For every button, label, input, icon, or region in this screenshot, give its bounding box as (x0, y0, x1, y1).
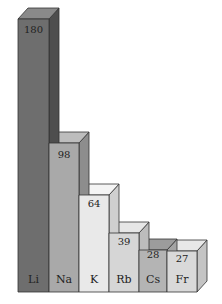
bar-label-li: Li (18, 273, 49, 286)
bar-label-fr: Fr (167, 273, 197, 286)
bar-label-cs: Cs (139, 273, 167, 286)
bar-rb: 39 Rb (109, 231, 139, 292)
bar-k: 64 K (79, 193, 109, 292)
bar-value-li: 180 (18, 24, 49, 35)
bar-value-cs: 28 (139, 249, 167, 260)
bar-fr: 27 Fr (167, 250, 197, 292)
bar-value-na: 98 (49, 149, 79, 160)
bar-value-rb: 39 (109, 236, 139, 247)
bar-li: 180 Li (18, 19, 49, 292)
bar-label-na: Na (49, 273, 79, 286)
bar-label-k: K (79, 273, 109, 286)
bar-cs: 28 Cs (139, 246, 167, 292)
bar-na: 98 Na (49, 144, 79, 292)
bar-value-k: 64 (79, 198, 109, 209)
bar-label-rb: Rb (109, 273, 139, 286)
bar-value-fr: 27 (167, 253, 197, 264)
